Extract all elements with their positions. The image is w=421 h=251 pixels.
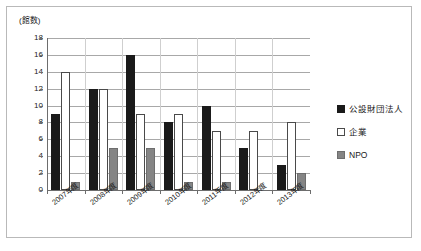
y-axis-line (47, 38, 48, 191)
bar (126, 55, 135, 190)
bar (174, 114, 183, 190)
y-axis-tick-mark (40, 55, 43, 56)
bar (287, 122, 296, 190)
legend-item-label: 企業 (349, 127, 367, 137)
bar (51, 114, 60, 190)
category-separator (272, 38, 273, 190)
y-axis-tick-mark (40, 89, 43, 90)
chart-legend: 公設財団法人企業NPO (337, 104, 417, 173)
gridline (47, 72, 310, 73)
bar (202, 106, 211, 190)
category-separator (235, 38, 236, 190)
bar (89, 89, 98, 190)
y-axis-tick-mark (40, 72, 43, 73)
legend-item[interactable]: 企業 (337, 127, 417, 150)
bar (164, 122, 173, 190)
gridline (47, 106, 310, 107)
y-axis-tick-mark (40, 190, 43, 191)
bar (277, 165, 286, 190)
y-axis-tick-mark (40, 122, 43, 123)
x-axis-tick-labels: 2007年度2008年度2009年度2010年度2011年度2012年度2013… (47, 190, 311, 240)
gridline (47, 55, 310, 56)
gridline (47, 89, 310, 90)
category-separator (122, 38, 123, 190)
chart-figure: (館数) 181614121086420 2007年度2008年度2009年度2… (0, 0, 421, 251)
y-axis-unit-label: (館数) (19, 14, 40, 25)
y-axis-tick-labels: 181614121086420 (21, 38, 43, 190)
plot-area (47, 38, 310, 190)
gridline (47, 38, 310, 39)
y-axis-tick-mark (40, 173, 43, 174)
y-axis-tick-mark (40, 139, 43, 140)
legend-item[interactable]: NPO (337, 150, 417, 173)
white-square-icon (337, 128, 345, 136)
y-axis-tick-mark (40, 106, 43, 107)
bar (239, 148, 248, 190)
legend-item[interactable]: 公設財団法人 (337, 104, 417, 127)
legend-item-label: 公設財団法人 (349, 104, 403, 114)
category-separator (197, 38, 198, 190)
bar (61, 72, 70, 190)
category-separator (85, 38, 86, 190)
category-separator (160, 38, 161, 190)
legend-item-label: NPO (349, 150, 367, 160)
bar (99, 89, 108, 190)
black-square-icon (337, 105, 345, 113)
bar (136, 114, 145, 190)
y-axis-tick-mark (40, 156, 43, 157)
bar (249, 131, 258, 190)
gray-square-icon (337, 151, 345, 159)
y-axis-tick-mark (40, 38, 43, 39)
